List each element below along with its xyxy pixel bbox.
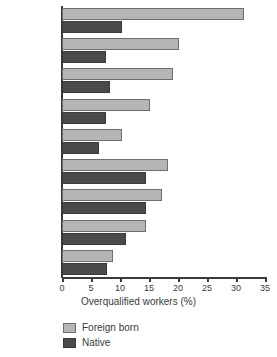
bar-group: Greece xyxy=(62,8,266,36)
legend-item-native: Native xyxy=(63,335,139,350)
bar-native xyxy=(62,81,110,93)
bar-foreign-born xyxy=(62,159,168,171)
legend-label-native: Native xyxy=(82,337,110,348)
chart-legend: Foreign born Native xyxy=(63,320,139,350)
bar-group: Poland xyxy=(62,250,266,278)
bar-group: Italy xyxy=(62,99,266,127)
legend-swatch-native-icon xyxy=(63,338,76,348)
bar-group: Sweden xyxy=(62,68,266,96)
bar-foreign-born xyxy=(62,250,113,262)
x-axis-tick-label: 35 xyxy=(260,283,270,293)
bar-group: UK xyxy=(62,159,266,187)
bar-foreign-born xyxy=(62,129,122,141)
x-axis-tick-label: 30 xyxy=(231,283,241,293)
x-axis-tick-label: 10 xyxy=(115,283,125,293)
bar-native xyxy=(62,21,122,33)
bar-group: Spain xyxy=(62,38,266,66)
bar-native xyxy=(62,263,107,275)
x-axis-tick-label: 5 xyxy=(88,283,93,293)
bar-foreign-born xyxy=(62,99,150,111)
bar-native xyxy=(62,51,106,63)
bar-native xyxy=(62,112,106,124)
x-axis-title: Overqualified workers (%) xyxy=(0,296,277,307)
bar-foreign-born xyxy=(62,189,162,201)
legend-item-foreign-born: Foreign born xyxy=(63,320,139,335)
legend-label-foreign-born: Foreign born xyxy=(82,322,139,333)
bar-foreign-born xyxy=(62,38,179,50)
overqualified-workers-bar-chart: 05101520253035 GreeceSpainSwedenItalyCze… xyxy=(0,0,277,357)
bar-foreign-born xyxy=(62,68,173,80)
x-axis-tick-label: 15 xyxy=(144,283,154,293)
legend-swatch-foreign-born-icon xyxy=(63,323,76,333)
bar-foreign-born xyxy=(62,8,244,20)
x-axis-tick-label: 0 xyxy=(59,283,64,293)
bar-native xyxy=(62,233,126,245)
x-axis-tick-label: 25 xyxy=(202,283,212,293)
bar-native xyxy=(62,202,146,214)
bar-group: USA xyxy=(62,189,266,217)
bar-native xyxy=(62,172,146,184)
bar-foreign-born xyxy=(62,220,146,232)
bar-group: France xyxy=(62,220,266,248)
bar-group: Czech Rep. xyxy=(62,129,266,157)
bar-native xyxy=(62,142,99,154)
plot-area: GreeceSpainSwedenItalyCzech Rep.UKUSAFra… xyxy=(62,6,266,278)
x-axis-tick-label: 20 xyxy=(173,283,183,293)
